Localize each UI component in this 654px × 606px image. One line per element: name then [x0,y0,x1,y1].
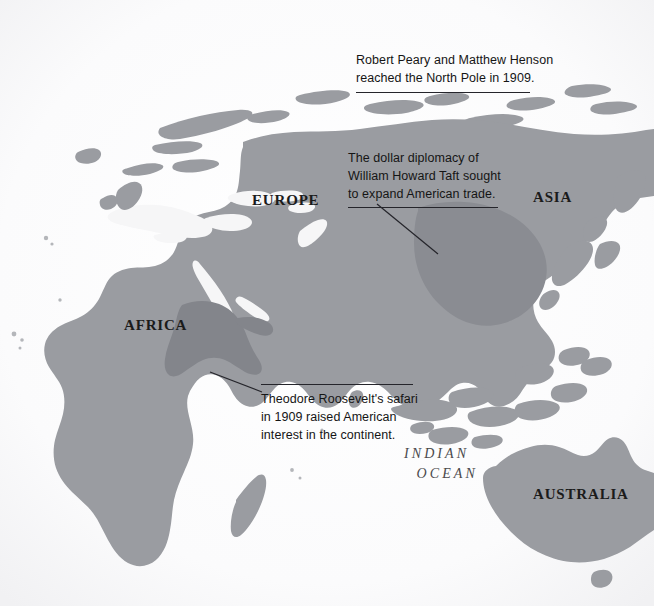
continent-label-asia: ASIA [533,190,572,205]
continent-label-europe: EUROPE [252,193,319,208]
ocean-label-indian-ocean: INDIAN OCEAN [404,444,478,485]
world-map-graphic [0,0,654,606]
annotation-line: Robert Peary and Matthew Henson [356,52,553,70]
ocean-label-line-1: INDIAN [404,444,478,464]
annotation-line: to expand American trade. [348,186,501,204]
annotation-north-pole-rule [356,92,530,93]
ocean-label-line-2: OCEAN [404,464,478,484]
annotation-line: in 1909 raised American [261,409,418,427]
continent-label-australia: AUSTRALIA [533,487,629,502]
historical-world-map: EUROPE ASIA AFRICA AUSTRALIA INDIAN OCEA… [0,0,654,606]
continent-label-africa: AFRICA [124,318,187,333]
annotation-north-pole-text: Robert Peary and Matthew Henson reached … [356,52,553,88]
annotation-dollar-diplomacy: The dollar diplomacy of William Howard T… [348,150,501,208]
annotation-roosevelt-safari-rule [261,384,413,385]
annotation-dollar-diplomacy-rule [348,207,498,208]
annotation-line: Theodore Roosevelt's safari [261,391,418,409]
annotation-line: reached the North Pole in 1909. [356,70,553,88]
annotation-line: interest in the continent. [261,427,418,445]
annotation-line: William Howard Taft sought [348,168,501,186]
annotation-line: The dollar diplomacy of [348,150,501,168]
annotation-roosevelt-safari: Theodore Roosevelt's safari in 1909 rais… [261,384,418,444]
annotation-north-pole: Robert Peary and Matthew Henson reached … [356,52,553,93]
annotation-dollar-diplomacy-text: The dollar diplomacy of William Howard T… [348,150,501,203]
annotation-roosevelt-safari-text: Theodore Roosevelt's safari in 1909 rais… [261,391,418,444]
